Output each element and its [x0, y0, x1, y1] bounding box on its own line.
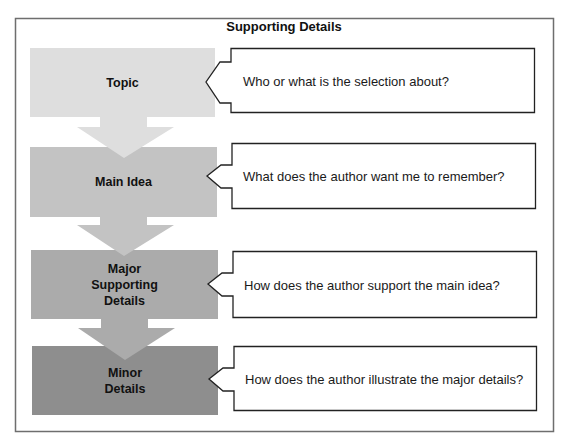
major-details-question: How does the author support the main ide… [244, 252, 534, 318]
minor-details-label: Minor Details [32, 346, 218, 415]
major-details-question-text: How does the author support the main ide… [244, 278, 500, 293]
main-idea-label-text: Main Idea [95, 174, 152, 190]
minor-label-line: Minor [108, 365, 142, 381]
minor-details-question-text: How does the author illustrate the major… [245, 372, 523, 387]
major-details-label: Major Supporting Details [31, 250, 218, 319]
minor-details-question: How does the author illustrate the major… [245, 347, 535, 411]
major-label-line: Major [108, 261, 141, 277]
major-label-line: Details [104, 293, 145, 309]
topic-label-text: Topic [106, 75, 138, 91]
main-idea-question: What does the author want me to remember… [243, 144, 533, 209]
major-label-line: Supporting [91, 277, 158, 293]
supporting-details-diagram: Supporting Details Topic Main Idea Major… [0, 0, 567, 443]
main-idea-label: Main Idea [30, 147, 217, 217]
minor-label-line: Details [105, 381, 146, 397]
topic-question: Who or what is the selection about? [243, 49, 533, 113]
topic-question-text: Who or what is the selection about? [243, 74, 449, 89]
main-idea-question-text: What does the author want me to remember… [243, 169, 505, 184]
topic-label: Topic [30, 48, 215, 117]
diagram-title: Supporting Details [15, 19, 553, 34]
